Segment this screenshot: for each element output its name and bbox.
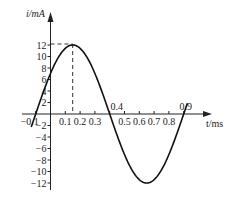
y-tick-label: 2 — [42, 97, 47, 108]
y-tick-label: −6 — [36, 143, 47, 154]
y-tick-label: 12 — [37, 40, 47, 51]
x-tick-label: 0.4 — [110, 101, 123, 112]
x-tick-label: −0.1 — [21, 116, 39, 127]
y-axis-arrow-icon — [48, 12, 54, 22]
x-tick-label: 0.8 — [163, 116, 176, 127]
y-axis-label: i/mA — [26, 8, 46, 19]
sine-current-chart: i/mA t/ms 12108642−2−4−6−8−10−12 −0.10.1… — [0, 0, 239, 204]
x-axis-label: t/ms — [206, 118, 223, 129]
x-tick-label: 0.2 — [74, 116, 87, 127]
x-tick-label: 0.3 — [89, 116, 102, 127]
y-tick-label: 10 — [37, 51, 47, 62]
x-tick-label: 0.5 — [118, 116, 131, 127]
y-tick-label: −4 — [36, 132, 47, 143]
x-tick-label: 0.7 — [148, 116, 161, 127]
x-tick-label: 0.6 — [133, 116, 146, 127]
x-axis-arrow-icon — [203, 111, 212, 117]
y-tick-label: −10 — [31, 166, 47, 177]
y-tick-label: −8 — [36, 155, 47, 166]
x-tick-label: 0.1 — [59, 116, 72, 127]
y-tick-label: −12 — [31, 178, 47, 189]
y-tick-label: 8 — [42, 63, 47, 74]
